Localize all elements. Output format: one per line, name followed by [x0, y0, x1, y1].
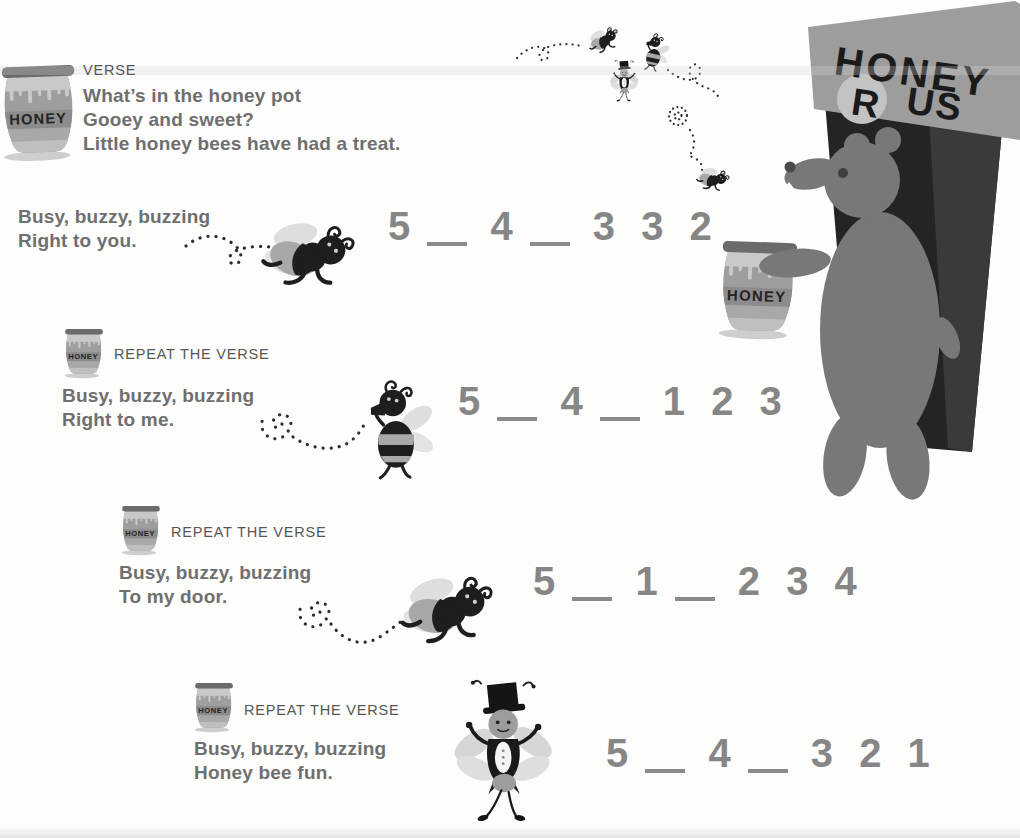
finger-number: 1: [635, 561, 657, 601]
hold-line: [645, 759, 685, 773]
finger-number: 1: [908, 733, 930, 773]
finger-number: 5: [458, 381, 480, 421]
finger-number: 3: [786, 561, 808, 601]
finger-number: 2: [738, 561, 760, 601]
finger-number: 5: [388, 206, 410, 246]
lyric-line: Busy, buzzy, buzzing: [62, 384, 254, 408]
finger-numbers-row-4: 5 4 3 2 1: [606, 733, 930, 773]
bee-mini-icon-1: [586, 25, 621, 55]
section-1-lyrics: Busy, buzzy, buzzing Right to you.: [18, 205, 210, 253]
finger-number: 2: [711, 381, 733, 421]
lyric-line: Right to me.: [62, 408, 254, 432]
section-4-lyrics: Busy, buzzy, buzzing Honey bee fun.: [194, 737, 386, 785]
page-bottom-shadow: [0, 826, 1020, 838]
lyric-line: To my door.: [119, 585, 311, 609]
honey-pot-label: HONEY: [727, 286, 787, 305]
section-3-lyrics: Busy, buzzy, buzzing To my door.: [119, 561, 311, 609]
bee-flying-icon-1: [259, 212, 356, 293]
bear-nose: [785, 162, 796, 173]
finger-number: 5: [606, 733, 628, 773]
bee-megaphone-icon: [371, 382, 436, 478]
hold-line: [572, 587, 612, 601]
honey-pot-icon-4: HONEY: [194, 683, 234, 732]
finger-number: 3: [641, 206, 663, 246]
finger-number: 4: [835, 561, 857, 601]
section-2-lyrics: Busy, buzzy, buzzing Right to me.: [62, 384, 254, 432]
bear-mouth: [783, 182, 827, 248]
honey-pot-label: HONEY: [198, 706, 228, 715]
hold-line: [427, 232, 467, 246]
finger-number: 3: [811, 733, 833, 773]
hold-line: [675, 587, 715, 601]
verse-block: VERSE What’s in the honey pot Gooey and …: [83, 62, 400, 156]
lyric-line: Right to you.: [18, 229, 210, 253]
honey-pot-label: HONEY: [68, 352, 98, 361]
finger-number: 4: [490, 206, 512, 246]
sign-word-us: US: [904, 79, 966, 129]
verse-line-2: Gooey and sweet?: [83, 108, 400, 132]
bee-dancer-icon: [449, 681, 557, 822]
lyric-line: Busy, buzzy, buzzing: [18, 205, 210, 229]
finger-number: 4: [560, 381, 582, 421]
dotted-trails-top: [517, 44, 719, 170]
lyric-line: Honey bee fun.: [194, 761, 386, 785]
finger-number: 3: [593, 206, 615, 246]
finger-numbers-row-2: 5 4 1 2 3: [458, 381, 782, 421]
finger-number: 3: [760, 381, 782, 421]
repeat-verse-label-3: REPEAT THE VERSE: [171, 524, 326, 540]
verse-line-3: Little honey bees have had a treat.: [83, 132, 400, 156]
bee-mini-icon-4: [694, 162, 731, 194]
verse-label: VERSE: [83, 62, 400, 78]
bear-eye: [838, 168, 848, 178]
hold-line: [530, 232, 570, 246]
bear-head: [824, 142, 900, 218]
finger-number: 4: [708, 733, 730, 773]
finger-number: 5: [533, 561, 555, 601]
dotted-trail-3: [331, 616, 410, 642]
honey-pot-icon-3: HONEY: [121, 506, 161, 555]
lyric-line: Busy, buzzy, buzzing: [194, 737, 386, 761]
dotted-spiral-2: [262, 415, 291, 439]
dotted-trail-2: [293, 421, 366, 448]
repeat-verse-label-4: REPEAT THE VERSE: [244, 702, 399, 718]
finger-number: 2: [690, 206, 712, 246]
finger-number: 2: [859, 733, 881, 773]
hold-line: [748, 759, 788, 773]
lyric-line: Busy, buzzy, buzzing: [119, 561, 311, 585]
honey-pot-label: HONEY: [9, 110, 67, 128]
honey-pot-label: HONEY: [125, 529, 155, 538]
hold-line: [600, 407, 640, 421]
worksheet-page: HONEY R US HONEY HONEY HONEY HONEY HONEY: [0, 0, 1020, 838]
finger-numbers-row-3: 5 1 2 3 4: [533, 561, 857, 601]
honey-pot-large-icon: HONEY: [0, 65, 80, 162]
bee-flying-icon-2: [400, 572, 492, 644]
hold-line: [497, 407, 537, 421]
repeat-verse-label-2: REPEAT THE VERSE: [114, 346, 269, 362]
finger-numbers-row-1: 5 4 3 3 2: [388, 206, 712, 246]
honey-pot-icon-2: HONEY: [64, 329, 104, 378]
finger-number: 1: [663, 381, 685, 421]
verse-line-1: What’s in the honey pot: [83, 84, 400, 108]
